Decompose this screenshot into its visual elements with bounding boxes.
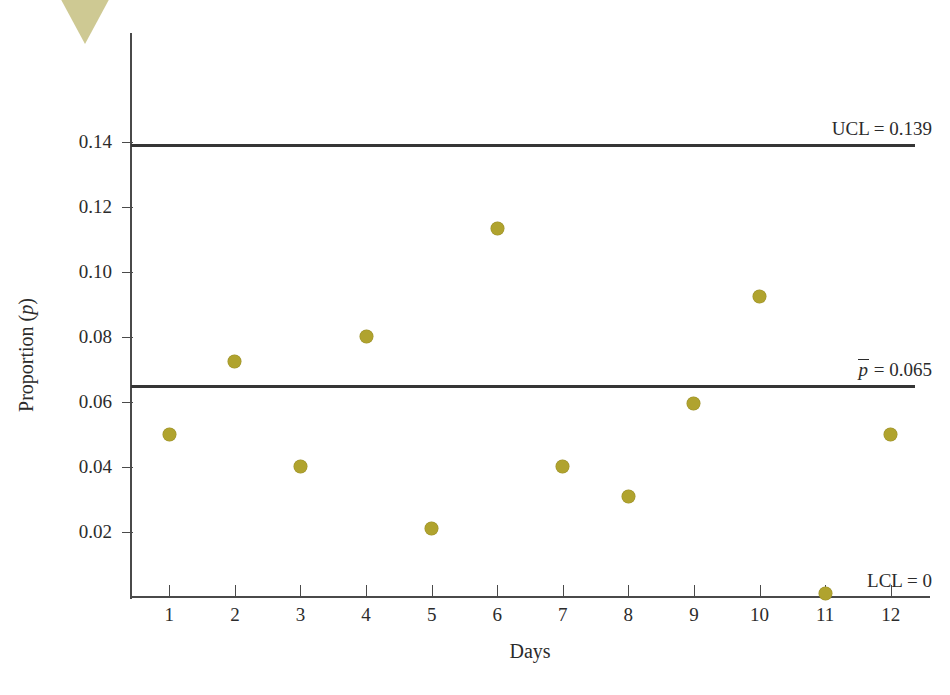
y-axis-title: Proportion (p) — [16, 255, 36, 455]
x-tick-label-1: 1 — [149, 604, 189, 626]
data-point-day-2 — [228, 355, 241, 368]
data-point-day-3 — [294, 460, 307, 473]
x-tick-label-4: 4 — [346, 604, 386, 626]
y-axis-line — [130, 33, 132, 599]
x-tick-8 — [628, 585, 629, 596]
data-point-day-12 — [884, 428, 897, 441]
x-tick-label-2: 2 — [215, 604, 255, 626]
ucl-label: UCL = 0.139 — [832, 119, 932, 139]
data-point-day-9 — [687, 397, 700, 410]
x-tick-3 — [300, 585, 301, 596]
corner-triangle-decoration — [44, 0, 126, 44]
y-tick-0.06 — [122, 402, 133, 403]
data-point-day-8 — [622, 490, 635, 503]
cl-label: p = 0.065 — [858, 360, 932, 380]
data-point-day-1 — [163, 428, 176, 441]
x-tick-7 — [563, 585, 564, 596]
x-tick-label-8: 8 — [608, 604, 648, 626]
x-tick-2 — [235, 585, 236, 596]
y-tick-label-0.04: 0.04 — [40, 457, 112, 476]
data-point-day-4 — [360, 330, 373, 343]
p-symbol: p — [15, 305, 37, 315]
y-tick-0.04 — [122, 467, 133, 468]
data-point-day-11 — [819, 587, 832, 600]
x-tick-label-12: 12 — [871, 604, 911, 626]
lcl-label: LCL = 0 — [867, 571, 932, 591]
y-tick-label-0.10: 0.10 — [40, 262, 112, 281]
x-tick-label-10: 10 — [740, 604, 780, 626]
data-point-day-5 — [425, 522, 438, 535]
y-tick-0.12 — [122, 207, 133, 208]
cl-line — [131, 385, 915, 388]
data-point-day-10 — [753, 290, 766, 303]
x-tick-label-9: 9 — [674, 604, 714, 626]
y-tick-0.02 — [122, 532, 133, 533]
x-tick-label-6: 6 — [477, 604, 517, 626]
y-tick-label-0.12: 0.12 — [40, 197, 112, 216]
x-tick-5 — [432, 585, 433, 596]
x-tick-10 — [760, 585, 761, 596]
x-tick-label-5: 5 — [412, 604, 452, 626]
y-tick-label-0.06: 0.06 — [40, 392, 112, 411]
ucl-line — [131, 144, 915, 147]
x-tick-label-3: 3 — [280, 604, 320, 626]
y-tick-0.10 — [122, 272, 133, 273]
x-axis-title: Days — [0, 640, 950, 662]
y-tick-label-0.14: 0.14 — [40, 132, 112, 151]
x-axis-line — [130, 596, 930, 598]
x-tick-6 — [497, 585, 498, 596]
data-point-day-6 — [491, 222, 504, 235]
x-tick-1 — [169, 585, 170, 596]
x-tick-label-7: 7 — [543, 604, 583, 626]
y-tick-label-0.02: 0.02 — [40, 522, 112, 541]
p-bar-symbol: p — [858, 360, 870, 380]
y-tick-0.08 — [122, 337, 133, 338]
x-tick-label-11: 11 — [805, 604, 845, 626]
x-axis-title-text: Days — [509, 640, 550, 662]
control-chart-figure: 0.020.040.060.080.100.120.14 12345678910… — [0, 0, 950, 695]
data-point-day-7 — [556, 460, 569, 473]
y-tick-label-0.08: 0.08 — [40, 327, 112, 346]
x-tick-9 — [694, 585, 695, 596]
y-tick-0.14 — [122, 142, 133, 143]
x-tick-4 — [366, 585, 367, 596]
